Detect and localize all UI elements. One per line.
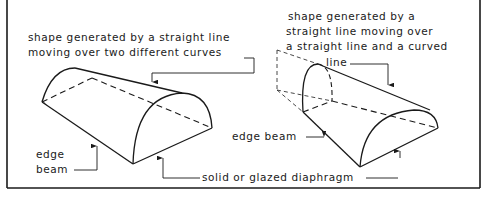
left-caption-line2: moving over two different curves <box>28 46 222 58</box>
left-caption-line1: shape generated by a straight line <box>28 31 230 43</box>
left-edge-beam-leader <box>74 146 97 170</box>
shell-roof-diagram: shape generated by a straight line movin… <box>0 0 484 203</box>
right-caption-line1: shape generated by a <box>288 10 415 22</box>
right-shell-figure <box>277 50 438 167</box>
right-caption-line4: line <box>326 56 347 68</box>
right-caption-leader <box>350 64 388 85</box>
right-caption-line2: straight line moving over <box>286 25 433 37</box>
right-edge-beam-label: edge beam <box>232 130 297 142</box>
left-edge-label-2: beam <box>36 163 68 175</box>
right-caption-line3: a straight line and a curved <box>286 40 448 52</box>
diaphragm-label: solid or glazed diaphragm <box>202 171 354 183</box>
left-edge-label-1: edge <box>36 148 65 160</box>
left-shell-figure <box>42 68 212 164</box>
left-caption-leader <box>152 58 254 82</box>
